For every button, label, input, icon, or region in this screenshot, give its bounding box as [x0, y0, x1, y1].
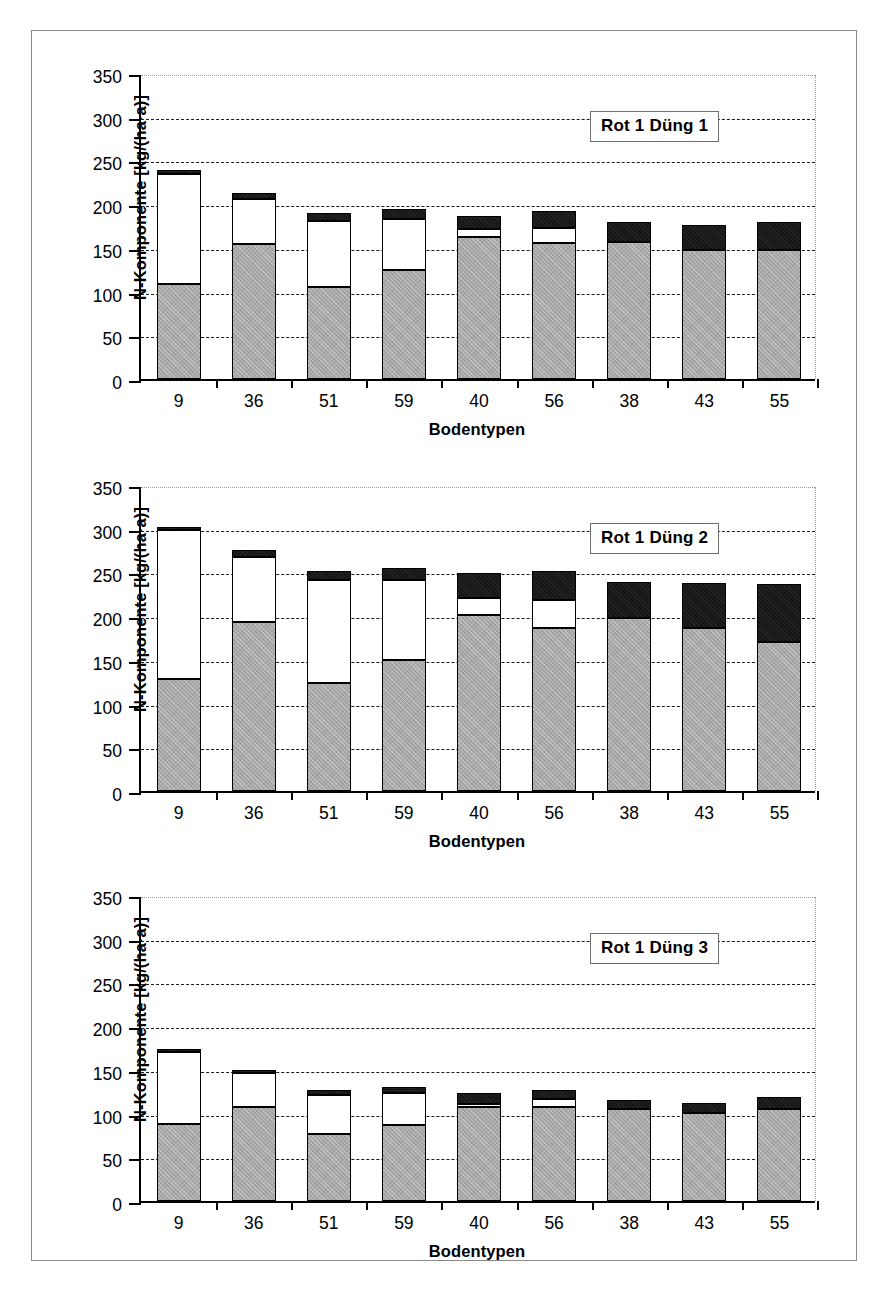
stacked-bar-43: [682, 583, 726, 791]
plot-area-1: 35030025020015010050093651594056384355Ro…: [139, 75, 815, 381]
panel-label-box: Rot 1 Düng 3: [590, 933, 719, 964]
y-tick-0: 0: [129, 793, 141, 795]
stacked-bar-55: [757, 584, 801, 791]
y-tick-150: 150: [129, 250, 141, 252]
y-tick-350: 350: [129, 75, 141, 77]
bar-segment-segment-bottom-gray: [682, 1113, 726, 1201]
x-tick: [817, 1201, 819, 1210]
y-tick-50: 50: [129, 1159, 141, 1161]
x-tick: [291, 379, 293, 388]
plot-right-edge: [815, 897, 816, 1201]
bar-segment-segment-top-black: [307, 1090, 351, 1095]
x-tick-label-9: 9: [174, 1213, 184, 1234]
y-tick-50: 50: [129, 749, 141, 751]
bar-segment-segment-top-black: [682, 1103, 726, 1113]
x-tick-label-36: 36: [244, 803, 263, 824]
stacked-bar-40: [457, 216, 501, 379]
bar-segment-segment-bottom-gray: [757, 1109, 801, 1201]
y-tick-label: 0: [112, 1195, 122, 1216]
y-tick-label: 150: [93, 653, 122, 674]
bar-segment-segment-top-black: [757, 1097, 801, 1109]
y-tick-0: 0: [129, 1203, 141, 1205]
y-tick-200: 200: [129, 1028, 141, 1030]
bar-segment-segment-top-black: [532, 571, 576, 600]
bar-segment-segment-bottom-gray: [607, 618, 651, 791]
x-tick: [366, 1201, 368, 1210]
bar-segment-segment-bottom-gray: [457, 1107, 501, 1201]
bar-segment-segment-top-black: [682, 225, 726, 249]
x-tick: [667, 379, 669, 388]
x-axis-title: Bodentypen: [139, 1242, 815, 1261]
stacked-bar-38: [607, 1100, 651, 1201]
x-tick: [441, 379, 443, 388]
bar-segment-segment-bottom-gray: [607, 242, 651, 379]
x-tick-label-51: 51: [319, 803, 338, 824]
x-tick: [742, 379, 744, 388]
x-tick: [517, 379, 519, 388]
bar-segment-segment-top-black: [382, 209, 426, 219]
bar-segment-segment-middle-white: [457, 1104, 501, 1107]
figure-page: N-Komponente [kg/(ha·a)] 350300250200150…: [0, 0, 889, 1292]
stacked-bar-9: [157, 170, 201, 379]
gridline-250: [141, 984, 815, 985]
x-tick: [592, 379, 594, 388]
y-tick-100: 100: [129, 1116, 141, 1118]
plot-right-edge: [815, 487, 816, 791]
x-tick: [291, 791, 293, 800]
y-tick-label: 200: [93, 610, 122, 631]
bar-segment-segment-bottom-gray: [457, 237, 501, 379]
x-tick-label-59: 59: [394, 803, 413, 824]
stacked-bar-40: [457, 573, 501, 791]
panel-label-box: Rot 1 Düng 2: [590, 523, 719, 554]
stacked-bar-40: [457, 1093, 501, 1201]
bar-segment-segment-middle-white: [232, 557, 276, 623]
gridline-350: [141, 75, 815, 76]
y-tick-label: 300: [93, 522, 122, 543]
bar-segment-segment-middle-white: [232, 1073, 276, 1106]
bar-segment-segment-bottom-gray: [307, 683, 351, 791]
bar-segment-segment-middle-white: [157, 174, 201, 284]
y-tick-150: 150: [129, 1072, 141, 1074]
stacked-bar-51: [307, 213, 351, 379]
bar-segment-segment-bottom-gray: [382, 270, 426, 379]
bar-segment-segment-bottom-gray: [457, 615, 501, 791]
chart-panel-2: N-Komponente [kg/(ha·a)] 350300250200150…: [31, 448, 857, 858]
gridline-350: [141, 487, 815, 488]
x-tick-label-40: 40: [469, 391, 488, 412]
stacked-bar-9: [157, 527, 201, 791]
stacked-bar-9: [157, 1049, 201, 1201]
y-tick-label: 200: [93, 198, 122, 219]
stacked-bar-55: [757, 1097, 801, 1201]
bar-segment-segment-top-black: [232, 550, 276, 557]
bar-segment-segment-middle-white: [232, 199, 276, 244]
bar-segment-segment-top-black: [382, 568, 426, 580]
x-tick: [517, 1201, 519, 1210]
x-tick: [291, 1201, 293, 1210]
y-tick-label: 350: [93, 889, 122, 910]
gridline-200: [141, 1028, 815, 1029]
x-tick-label-9: 9: [174, 803, 184, 824]
x-tick: [667, 791, 669, 800]
x-tick: [667, 1201, 669, 1210]
bar-segment-segment-bottom-gray: [532, 243, 576, 379]
gridline-250: [141, 162, 815, 163]
bar-segment-segment-top-black: [607, 1100, 651, 1110]
bar-segment-segment-top-black: [532, 211, 576, 228]
y-tick-300: 300: [129, 119, 141, 121]
stacked-bar-43: [682, 1103, 726, 1201]
plot-area-3: 35030025020015010050093651594056384355Ro…: [139, 897, 815, 1203]
bar-segment-segment-middle-white: [307, 221, 351, 287]
x-tick-label-40: 40: [469, 1213, 488, 1234]
y-tick-250: 250: [129, 574, 141, 576]
stacked-bar-55: [757, 222, 801, 379]
bar-segment-segment-top-black: [307, 571, 351, 581]
x-tick-label-56: 56: [544, 1213, 563, 1234]
bar-segment-segment-top-black: [382, 1087, 426, 1092]
x-tick-label-51: 51: [319, 391, 338, 412]
stacked-bar-36: [232, 1070, 276, 1201]
y-tick-100: 100: [129, 294, 141, 296]
x-tick-label-43: 43: [695, 803, 714, 824]
stacked-bar-51: [307, 571, 351, 791]
bar-segment-segment-top-black: [457, 1093, 501, 1104]
y-tick-label: 50: [103, 329, 122, 350]
